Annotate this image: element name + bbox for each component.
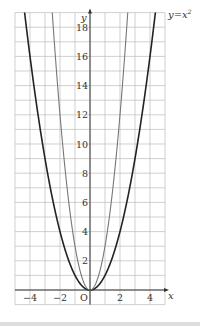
y-tick-label: 8	[82, 168, 88, 179]
y-tick-label: 10	[76, 139, 88, 150]
bottom-divider	[0, 322, 200, 326]
y-tick-label: 16	[76, 51, 88, 62]
y-tick-label: 4	[82, 226, 88, 237]
x-tick-label: 2	[117, 292, 123, 303]
y-axis-arrow-icon	[88, 9, 92, 14]
y-tick-label: 18	[76, 22, 88, 33]
tick-labels: −4−22424681012141618Oxy	[23, 12, 174, 303]
axes	[15, 9, 169, 305]
y-tick-label: 14	[76, 80, 88, 91]
y-axis-label: y	[80, 12, 87, 23]
origin-label: O	[80, 292, 88, 303]
x-tick-label: −4	[23, 292, 37, 303]
y-tick-label: 6	[82, 197, 88, 208]
parabola-chart: −4−22424681012141618Oxy y=x2	[0, 0, 200, 333]
x-axis-label: x	[168, 290, 174, 301]
curve-label-y-equals-x-squared: y=x2	[167, 8, 192, 20]
y-tick-label: 12	[76, 109, 88, 120]
x-tick-label: −2	[53, 292, 67, 303]
x-tick-label: 4	[147, 292, 153, 303]
y-tick-label: 2	[82, 255, 88, 266]
